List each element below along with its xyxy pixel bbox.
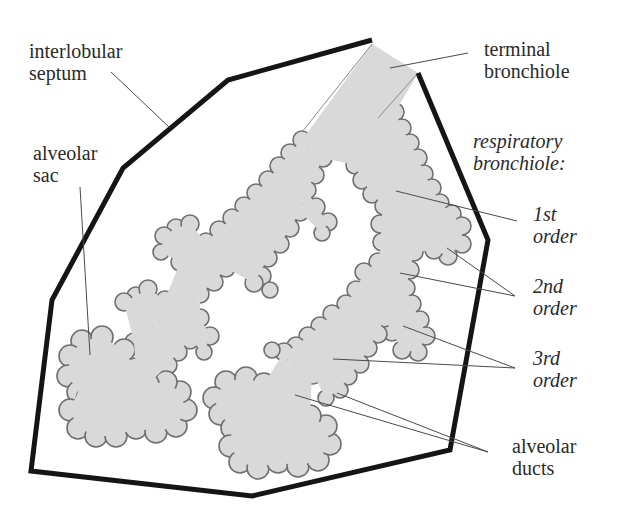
label-line: terminal [484,38,570,60]
label-line: 2nd [533,275,577,297]
label-alveolar-ducts: alveolar ducts [512,435,576,479]
label-line: 1st [533,203,577,225]
label-line: ducts [512,457,576,479]
leader-alveolar-ducts-a [337,393,488,452]
airway-tree [57,44,471,479]
label-line: order [533,297,577,319]
label-terminal-bronchiole: terminal bronchiole [484,38,570,82]
label-line: sac [33,164,97,186]
leader-terminal-bronchiole [390,53,468,68]
label-line: order [533,369,577,391]
lung-lobule-diagram: interlobular septum alveolar sac termina… [0,0,624,513]
label-line: interlobular [29,40,122,62]
label-respiratory-bronchiole: respiratory bronchiole: [473,130,566,174]
label-line: order [533,225,577,247]
label-3rd-order: 3rd order [533,347,577,391]
label-line: septum [29,62,122,84]
label-line: alveolar [33,142,97,164]
label-line: bronchiole [484,60,570,82]
label-line: 3rd [533,347,577,369]
label-line: alveolar [512,435,576,457]
label-1st-order: 1st order [533,203,577,247]
label-interlobular-septum: interlobular septum [29,40,122,84]
label-line: respiratory [473,130,566,152]
label-2nd-order: 2nd order [533,275,577,319]
leader-2nd-order-a [400,273,515,296]
label-line: bronchiole: [473,152,566,174]
label-alveolar-sac: alveolar sac [33,142,97,186]
